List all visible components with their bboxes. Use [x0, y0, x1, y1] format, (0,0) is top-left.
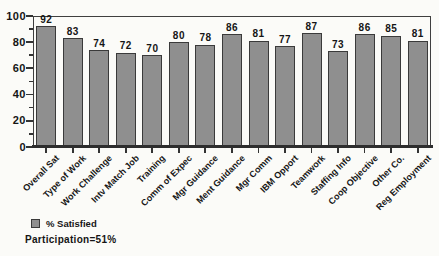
x-axis-tick — [231, 148, 233, 153]
bar — [355, 34, 375, 147]
bar-value-label: 87 — [299, 21, 325, 32]
y-axis-minor-tick — [29, 133, 33, 135]
x-axis-tick — [258, 148, 260, 153]
bar-value-label: 78 — [192, 32, 218, 43]
x-axis-tick — [337, 148, 339, 153]
y-axis-major-tick — [26, 67, 33, 69]
participation-note: Participation=51% — [25, 234, 117, 245]
y-axis-tick-label: 0 — [0, 141, 26, 154]
y-axis-tick-label: 20 — [0, 114, 26, 127]
x-axis-tick — [151, 148, 153, 153]
bar — [275, 46, 295, 147]
y-axis-minor-tick — [29, 81, 33, 83]
bar-value-label: 85 — [378, 23, 404, 34]
x-axis-tick — [125, 148, 127, 153]
y-axis-minor-tick — [29, 28, 33, 30]
y-axis-minor-tick — [29, 54, 33, 56]
bar — [381, 36, 401, 147]
x-axis-tick — [364, 148, 366, 153]
y-axis-tick-label: 80 — [0, 36, 26, 49]
bar-value-label: 83 — [60, 26, 86, 37]
y-axis-major-tick — [26, 120, 33, 122]
y-axis-major-tick — [26, 41, 33, 43]
bar — [249, 41, 269, 147]
bar — [169, 42, 189, 147]
bar-value-label: 86 — [219, 22, 245, 33]
bar — [222, 34, 242, 147]
bar-value-label: 77 — [272, 34, 298, 45]
x-axis-tick — [45, 148, 47, 153]
bar-value-label: 81 — [405, 28, 431, 39]
x-axis-tick — [284, 148, 286, 153]
y-axis-tick-label: 100 — [0, 10, 26, 23]
x-axis-tick — [390, 148, 392, 153]
bar-value-label: 86 — [352, 22, 378, 33]
bar — [116, 53, 136, 147]
bar-value-label: 81 — [246, 28, 272, 39]
bar — [408, 41, 428, 147]
satisfaction-bar-chart: 02040608010092Overall Sat83Type of Work7… — [0, 0, 439, 256]
y-axis-minor-tick — [29, 107, 33, 109]
y-axis-tick-label: 60 — [0, 62, 26, 75]
y-axis-major-tick — [26, 15, 33, 17]
legend-label: % Satisfied — [46, 218, 97, 229]
x-axis-tick — [98, 148, 100, 153]
legend-swatch — [31, 219, 40, 228]
bar — [63, 38, 83, 147]
bar — [36, 26, 56, 147]
bar-value-label: 80 — [166, 30, 192, 41]
x-axis-tick — [204, 148, 206, 153]
x-axis-tick — [178, 148, 180, 153]
x-axis-tick — [311, 148, 313, 153]
bar-value-label: 70 — [139, 43, 165, 54]
y-axis-tick-label: 40 — [0, 88, 26, 101]
bar-value-label: 92 — [33, 14, 59, 25]
bar — [302, 33, 322, 147]
y-axis-major-tick — [26, 94, 33, 96]
bar — [328, 51, 348, 147]
bar-value-label: 72 — [113, 40, 139, 51]
bar — [195, 45, 215, 147]
legend: % Satisfied — [31, 218, 97, 229]
bar-value-label: 73 — [325, 39, 351, 50]
x-axis-line — [32, 145, 433, 148]
bar-value-label: 74 — [86, 38, 112, 49]
x-axis-tick — [417, 148, 419, 153]
bar — [142, 55, 162, 147]
x-axis-tick — [72, 148, 74, 153]
bar — [89, 50, 109, 147]
